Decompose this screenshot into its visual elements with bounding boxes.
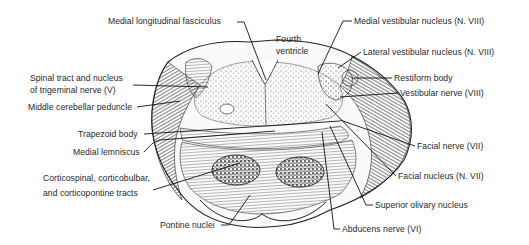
- label-medial-vestibular-nucleus: Medial vestibular nucleus (N. VIII): [354, 16, 484, 27]
- label-vestibular-nerve: Vestibular nerve (VIII): [400, 88, 484, 99]
- label-fourth-ventricle: Fourth ventricle: [276, 33, 308, 57]
- label-abducens-nerve: Abducens nerve (VI): [342, 224, 421, 235]
- label-pontine-nuclei: Pontine nuclei: [160, 220, 215, 231]
- label-restiform-body: Restiform body: [394, 73, 453, 84]
- label-facial-nerve: Facial nerve (VII): [417, 141, 483, 152]
- pons-outline: [152, 40, 412, 228]
- label-spinal-tract-trigeminal: Spinal tract and nucleus of trigeminal n…: [30, 73, 123, 96]
- label-lateral-vestibular-nucleus: Lateral vestibular nucleus (N. VIII): [363, 47, 494, 58]
- pons-cross-section-figure: Medial longitudinal fasciculus Fourth ve…: [0, 0, 529, 245]
- label-superior-olivary-nucleus: Superior olivary nucleus: [375, 200, 468, 211]
- label-corticospinal-tracts: Corticospinal, corticobulbar, and cortic…: [43, 171, 150, 201]
- label-medial-longitudinal-fasciculus: Medial longitudinal fasciculus: [108, 16, 221, 27]
- label-medial-lemniscus: Medial lemniscus: [73, 147, 140, 158]
- label-trapezoid-body: Trapezoid body: [78, 129, 138, 140]
- label-facial-nucleus: Facial nucleus (N. VII): [398, 171, 484, 182]
- label-middle-cerebellar-peduncle: Middle cerebellar peduncle: [28, 102, 132, 113]
